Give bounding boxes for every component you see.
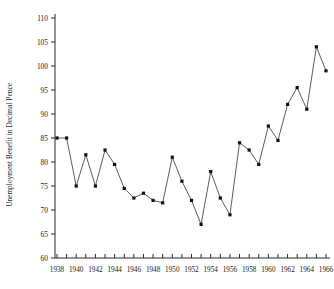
y-tick-label: 80 bbox=[41, 158, 49, 167]
data-point-marker bbox=[75, 184, 78, 187]
line-chart-plot: 1101051009590858075706560 19381940194219… bbox=[0, 0, 334, 289]
data-point-marker bbox=[324, 69, 327, 72]
y-axis-label: Unemployment Benefit in Decimal Pence bbox=[2, 0, 18, 289]
y-tick-label: 110 bbox=[37, 14, 48, 23]
x-tick-label: 1952 bbox=[184, 266, 199, 274]
series-markers bbox=[55, 45, 327, 226]
y-tick-label: 60 bbox=[41, 254, 49, 263]
data-point-marker bbox=[84, 153, 87, 156]
x-tick-label: 1962 bbox=[280, 266, 295, 274]
data-point-marker bbox=[65, 136, 68, 139]
x-tick-label: 1938 bbox=[50, 266, 65, 274]
data-point-marker bbox=[103, 148, 106, 151]
x-tick-label: 1964 bbox=[300, 266, 315, 274]
data-point-marker bbox=[200, 223, 203, 226]
y-tick-label: 95 bbox=[41, 86, 49, 95]
data-point-marker bbox=[315, 45, 318, 48]
data-point-marker bbox=[55, 136, 58, 139]
x-tick-label: 1954 bbox=[204, 266, 219, 274]
data-point-marker bbox=[238, 141, 241, 144]
y-tick-label: 90 bbox=[41, 110, 49, 119]
y-axis-label-text: Unemployment Benefit in Decimal Pence bbox=[6, 83, 14, 207]
x-tick-label: 1940 bbox=[69, 266, 84, 274]
data-point-marker bbox=[190, 199, 193, 202]
chart-container: Unemployment Benefit in Decimal Pence 11… bbox=[0, 0, 334, 289]
data-point-marker bbox=[132, 196, 135, 199]
data-point-marker bbox=[276, 139, 279, 142]
x-tick-label: 1942 bbox=[88, 266, 103, 274]
data-point-marker bbox=[113, 163, 116, 166]
data-point-marker bbox=[142, 192, 145, 195]
y-tick-label: 85 bbox=[41, 134, 49, 143]
data-point-marker bbox=[305, 108, 308, 111]
y-axis-ticks: 1101051009590858075706560 bbox=[37, 14, 55, 263]
data-point-marker bbox=[248, 148, 251, 151]
data-point-marker bbox=[151, 199, 154, 202]
x-tick-label: 1948 bbox=[146, 266, 161, 274]
data-point-marker bbox=[257, 163, 260, 166]
x-axis-ticks: 1938194019421944194619481950195219541956… bbox=[50, 254, 334, 274]
y-tick-label: 100 bbox=[37, 62, 48, 71]
y-tick-label: 105 bbox=[37, 38, 48, 47]
data-point-marker bbox=[209, 170, 212, 173]
data-point-marker bbox=[286, 103, 289, 106]
x-tick-label: 1956 bbox=[223, 266, 238, 274]
x-tick-label: 1944 bbox=[107, 266, 122, 274]
x-tick-label: 1960 bbox=[261, 266, 276, 274]
y-tick-label: 65 bbox=[41, 230, 49, 239]
data-point-marker bbox=[228, 213, 231, 216]
data-point-marker bbox=[219, 196, 222, 199]
x-tick-label: 1946 bbox=[127, 266, 142, 274]
data-point-marker bbox=[296, 86, 299, 89]
data-point-marker bbox=[180, 180, 183, 183]
y-tick-label: 75 bbox=[41, 182, 49, 191]
x-tick-label: 1966 bbox=[319, 266, 334, 274]
data-point-marker bbox=[123, 187, 126, 190]
data-point-marker bbox=[171, 156, 174, 159]
x-tick-label: 1958 bbox=[242, 266, 257, 274]
data-point-marker bbox=[94, 184, 97, 187]
y-tick-label: 70 bbox=[41, 206, 49, 215]
series-line bbox=[57, 47, 326, 225]
data-point-marker bbox=[161, 201, 164, 204]
x-tick-label: 1950 bbox=[165, 266, 180, 274]
data-point-marker bbox=[267, 124, 270, 127]
